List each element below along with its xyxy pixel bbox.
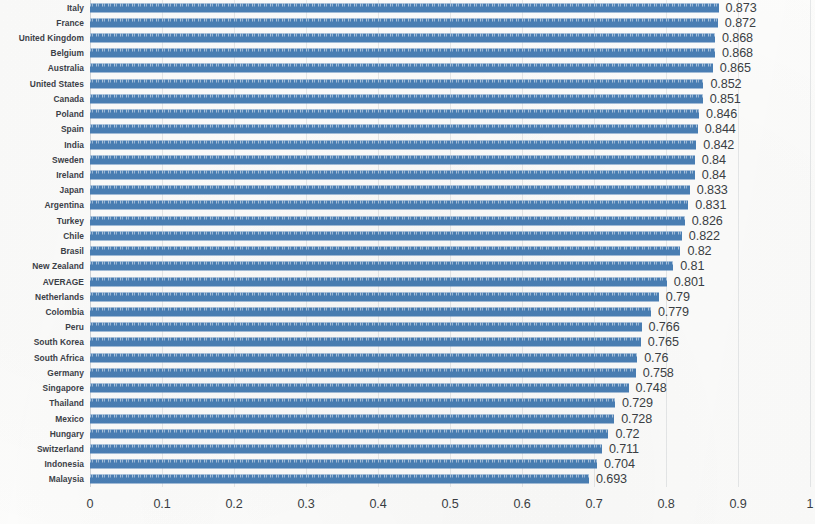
x-axis: 00.10.20.30.40.50.60.70.80.91 [90, 487, 810, 524]
bar-row: Germany0.758 [0, 365, 815, 380]
bar[interactable] [90, 110, 699, 119]
x-tick-label: 0.7 [585, 498, 602, 511]
value-label: 0.693 [596, 473, 627, 486]
value-label: 0.779 [658, 306, 689, 319]
bar[interactable] [90, 247, 680, 256]
bar-row: Argentina0.831 [0, 198, 815, 213]
bar[interactable] [90, 414, 614, 423]
bar[interactable] [90, 368, 636, 377]
bar[interactable] [90, 444, 602, 453]
value-label: 0.82 [687, 245, 711, 258]
bar-fill [90, 460, 597, 469]
bar[interactable] [90, 125, 698, 134]
bar-fill [90, 49, 715, 58]
value-label: 0.831 [695, 199, 726, 212]
bar-fill [90, 155, 695, 164]
bar[interactable] [90, 353, 637, 362]
category-label: Poland [56, 110, 84, 118]
bar-row: Belgium0.868 [0, 46, 815, 61]
value-label: 0.826 [692, 214, 723, 227]
bar[interactable] [90, 186, 690, 195]
bar-fill [90, 64, 713, 73]
bar[interactable] [90, 94, 703, 103]
value-label: 0.868 [722, 47, 753, 60]
bar-texture [90, 414, 614, 417]
bar[interactable] [90, 18, 718, 27]
bar[interactable] [90, 49, 715, 58]
bar-fill [90, 368, 636, 377]
value-label: 0.729 [622, 397, 653, 410]
bar[interactable] [90, 307, 651, 316]
bar-fill [90, 125, 698, 134]
bar-fill [90, 186, 690, 195]
category-label: Colombia [45, 308, 84, 316]
bar[interactable] [90, 323, 642, 332]
bar[interactable] [90, 171, 695, 180]
bar[interactable] [90, 384, 629, 393]
bar[interactable] [90, 475, 589, 484]
bar-fill [90, 201, 688, 210]
bar-row: Italy0.873 [0, 0, 815, 15]
bar[interactable] [90, 429, 608, 438]
bar-texture [90, 292, 659, 295]
bar-texture [90, 64, 713, 67]
bar-row: Mexico0.728 [0, 411, 815, 426]
value-label: 0.801 [674, 275, 705, 288]
value-label: 0.868 [722, 32, 753, 45]
bar-texture [90, 353, 637, 356]
x-tick-label: 1 [807, 498, 814, 511]
value-label: 0.748 [636, 382, 667, 395]
bar[interactable] [90, 3, 719, 12]
bar[interactable] [90, 338, 641, 347]
bar[interactable] [90, 399, 615, 408]
category-label: Turkey [57, 216, 84, 224]
bar-row: United Kingdom0.868 [0, 30, 815, 45]
bar[interactable] [90, 231, 682, 240]
bar-fill [90, 34, 715, 43]
bar-row: South Korea0.765 [0, 335, 815, 350]
bar[interactable] [90, 64, 713, 73]
bar-fill [90, 353, 637, 362]
bar-fill [90, 323, 642, 332]
category-label: Peru [65, 323, 84, 331]
value-label: 0.704 [604, 458, 635, 471]
value-label: 0.872 [725, 17, 756, 30]
value-label: 0.728 [621, 412, 652, 425]
category-label: Spain [61, 125, 84, 133]
bar-texture [90, 125, 698, 128]
bar-row: South Africa0.76 [0, 350, 815, 365]
bar-fill [90, 338, 641, 347]
bar-texture [90, 3, 719, 6]
category-label: Chile [63, 232, 84, 240]
category-label: United Kingdom [19, 34, 84, 42]
bar[interactable] [90, 262, 673, 271]
bar-texture [90, 201, 688, 204]
bar-texture [90, 34, 715, 37]
bar[interactable] [90, 79, 703, 88]
bar[interactable] [90, 460, 597, 469]
bar-fill [90, 414, 614, 423]
bar-row: Switzerland0.711 [0, 441, 815, 456]
value-label: 0.84 [702, 169, 726, 182]
bar-row: Malaysia0.693 [0, 472, 815, 487]
bar[interactable] [90, 277, 667, 286]
bar[interactable] [90, 34, 715, 43]
bar[interactable] [90, 140, 696, 149]
bar[interactable] [90, 201, 688, 210]
bar-row: United States0.852 [0, 76, 815, 91]
value-label: 0.766 [649, 321, 680, 334]
category-label: Brasil [60, 247, 84, 255]
bar-row: Sweden0.84 [0, 152, 815, 167]
bar-fill [90, 171, 695, 180]
bar-texture [90, 277, 667, 280]
bar-fill [90, 277, 667, 286]
category-label: Canada [53, 95, 84, 103]
bar[interactable] [90, 155, 695, 164]
bar[interactable] [90, 216, 685, 225]
value-label: 0.844 [705, 123, 736, 136]
value-label: 0.846 [706, 108, 737, 121]
bar-fill [90, 384, 629, 393]
bar-row: Spain0.844 [0, 122, 815, 137]
bar-fill [90, 140, 696, 149]
bar[interactable] [90, 292, 659, 301]
